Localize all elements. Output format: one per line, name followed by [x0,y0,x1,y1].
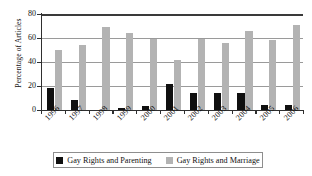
bar-2000-series-1 [150,39,157,110]
bar-2004-series-0 [237,93,244,110]
bar-2002-series-1 [198,39,205,110]
bar-group-2002 [184,14,208,110]
bar-group-2005 [255,14,279,110]
legend-swatch-1 [166,157,173,164]
x-axis-tick-marks [41,110,303,116]
x-tick-mark-6 [184,110,185,114]
bar-1997-series-0 [71,100,78,110]
bar-group-1996 [41,14,65,110]
legend-swatch-0 [56,157,63,164]
bar-2003-series-0 [214,93,221,110]
bar-2005-series-1 [269,40,276,110]
x-tick-mark-2 [89,110,90,114]
legend-label-1: Gay Rights and Marriage [177,156,260,165]
x-tick-mark-11 [303,110,304,114]
x-tick-mark-3 [112,110,113,114]
bar-group-2004 [232,14,256,110]
bar-group-2000 [136,14,160,110]
bar-2001-series-1 [174,60,181,110]
bar-group-1997 [65,14,89,110]
bar-group-2003 [208,14,232,110]
bar-2001-series-0 [166,84,173,110]
y-tick-label-40: 40 [6,58,36,66]
x-tick-mark-7 [208,110,209,114]
bar-2003-series-1 [222,43,229,110]
bar-1997-series-1 [79,45,86,110]
x-tick-mark-9 [255,110,256,114]
legend-entry-1: Gay Rights and Marriage [166,156,260,165]
y-tick-label-80: 80 [6,10,36,18]
x-tick-mark-5 [160,110,161,114]
bar-group-1998 [89,14,113,110]
bar-1999-series-1 [126,33,133,110]
y-tick-label-0: 0 [6,106,36,114]
bars-layer [41,14,303,110]
bar-1996-series-1 [55,50,62,110]
x-tick-mark-4 [136,110,137,114]
chart-legend: Gay Rights and ParentingGay Rights and M… [53,152,263,168]
bar-1998-series-1 [102,27,109,110]
bar-2004-series-1 [245,31,252,110]
bar-2006-series-1 [293,25,300,110]
bar-group-2006 [279,14,303,110]
bar-2002-series-0 [190,93,197,110]
x-tick-mark-1 [65,110,66,114]
y-tick-label-60: 60 [6,34,36,42]
legend-label-0: Gay Rights and Parenting [67,156,151,165]
bar-1996-series-0 [47,88,54,110]
legend-entry-0: Gay Rights and Parenting [56,156,151,165]
x-tick-mark-10 [279,110,280,114]
bar-chart-figure: Percentage of Articles 020406080 1996199… [0,0,312,176]
bar-group-2001 [160,14,184,110]
bar-group-1999 [112,14,136,110]
y-tick-label-20: 20 [6,82,36,90]
x-tick-mark-8 [232,110,233,114]
x-tick-mark-0 [41,110,42,114]
